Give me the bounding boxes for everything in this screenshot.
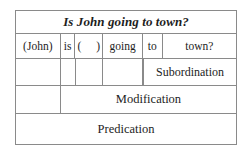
divider-tick-1 [16,59,61,85]
word-cell-object: town? [163,34,236,58]
divider-tick-3 [76,59,104,85]
word-cell-preposition: to [143,34,163,58]
word-cell-verb: going [103,34,143,58]
word-cell-subject: (John) [16,34,61,58]
divider-tick-2 [61,59,76,85]
ic-analysis-diagram: Is John going to town? (John) is ( ) goi… [15,10,237,145]
word-cell-auxiliary: is [61,34,76,58]
sentence-title: Is John going to town? [63,14,189,30]
predication-label: Predication [98,122,155,137]
predication-row: Predication [16,114,236,144]
subordination-label: Subordination [144,59,236,85]
modification-left-spacer [16,86,61,113]
subordination-row: Subordination [16,59,236,86]
word-cell-empty-slot: ( ) [75,34,103,58]
divider-tick-4 [103,59,143,85]
subordination-left-spacer [16,59,144,85]
sentence-title-row: Is John going to town? [16,11,236,34]
modification-row: Modification [16,86,236,114]
constituent-words-row: (John) is ( ) going to town? [16,34,236,59]
modification-label: Modification [61,86,236,113]
